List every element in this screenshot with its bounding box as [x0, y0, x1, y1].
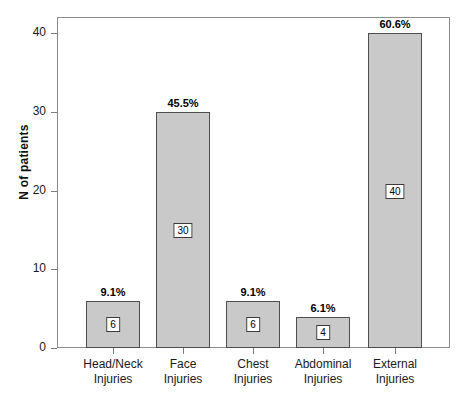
- y-tick-mark: [51, 269, 57, 270]
- y-axis-title: N of patients: [17, 102, 31, 222]
- bar-percent-label: 9.1%: [73, 286, 153, 298]
- x-tick-mark: [253, 348, 254, 354]
- bar-value-box: 6: [106, 317, 120, 332]
- y-tick-label: 40: [0, 25, 46, 39]
- bar-percent-label: 6.1%: [283, 302, 363, 314]
- y-tick-mark: [51, 191, 57, 192]
- y-tick-mark: [51, 348, 57, 349]
- y-tick-mark: [51, 33, 57, 34]
- y-tick-mark: [51, 112, 57, 113]
- bar-value-box: 4: [316, 325, 330, 340]
- bar-value-box: 40: [385, 184, 404, 199]
- y-tick-label: 10: [0, 261, 46, 275]
- bar-chart: N of patients 010203040 9.1%645.5%309.1%…: [0, 0, 465, 404]
- x-tick-mark: [395, 348, 396, 354]
- x-tick-mark: [183, 348, 184, 354]
- bar-percent-label: 45.5%: [143, 97, 223, 109]
- x-tick-mark: [113, 348, 114, 354]
- bar-value-box: 30: [173, 223, 192, 238]
- x-axis-label-line: External: [345, 357, 445, 372]
- x-tick-mark: [323, 348, 324, 354]
- bar-value-box: 6: [246, 317, 260, 332]
- x-axis-label-line: Injuries: [345, 372, 445, 387]
- x-axis-label: ExternalInjuries: [345, 357, 445, 387]
- y-tick-label: 30: [0, 104, 46, 118]
- y-tick-label: 0: [0, 340, 46, 354]
- caption-strip: [0, 398, 465, 404]
- bar-percent-label: 9.1%: [213, 286, 293, 298]
- bar-percent-label: 60.6%: [355, 18, 435, 30]
- y-tick-label: 20: [0, 183, 46, 197]
